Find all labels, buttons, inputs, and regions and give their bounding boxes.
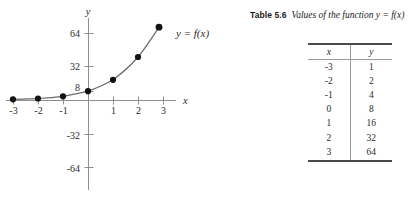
table-header-row: x y [308,44,392,60]
table-row: -2 2 [308,74,392,88]
data-point [10,96,16,102]
table-row: -3 1 [308,60,392,75]
cell-x: 0 [308,103,350,117]
cell-y: 64 [350,145,392,161]
function-curve [13,27,159,99]
x-tick-label: -3 [9,105,17,116]
table-row: -1 4 [308,88,392,102]
cell-y: 4 [350,88,392,102]
cell-x: -3 [308,60,350,75]
cell-y: 32 [350,131,392,145]
table-row: 1 16 [308,117,392,131]
y-tick-label: 64 [70,28,80,39]
x-tick-label: -1 [59,105,67,116]
curve-annotation-label: y = f(x) [175,27,209,40]
table-caption-text: Values of the function y = f(x) [291,10,404,20]
cell-y: 8 [350,103,392,117]
x-tick-label: 1 [111,105,116,116]
data-point [85,88,91,94]
y-tick-label: -32 [67,130,80,141]
y-axis-label: y [85,6,91,17]
column-header-y: y [350,44,392,60]
x-axis-label: x [182,95,188,106]
cell-x: 3 [308,145,350,161]
cell-y: 2 [350,74,392,88]
data-point [135,54,141,60]
values-table: x y -3 1 -2 2 -1 4 0 8 1 16 [308,43,392,162]
y-tick-label: -64 [67,163,80,174]
x-tick-label: 2 [136,105,141,116]
cell-y: 16 [350,117,392,131]
table-row: 3 64 [308,145,392,161]
cell-x: -2 [308,74,350,88]
column-header-x: x [308,44,350,60]
table-caption-tag: Table 5.6 [250,10,287,20]
table-caption: Table 5.6 Values of the function y = f(x… [250,7,409,22]
cell-y: 1 [350,60,392,75]
table-row: 2 32 [308,131,392,145]
data-point [35,95,41,101]
cell-x: 1 [308,117,350,131]
data-point [110,77,116,83]
data-point [156,24,163,31]
cell-x: -1 [308,88,350,102]
cell-x: 2 [308,131,350,145]
table-panel: Table 5.6 Values of the function y = f(x… [248,0,409,202]
data-point [60,93,66,99]
bottom-cutoff-text [8,195,208,202]
x-tick-label: 3 [161,105,166,116]
y-tick-label: 32 [70,61,80,72]
function-graph: -3 -2 -1 1 2 3 64 32 8 -32 -64 x y y = f… [0,0,240,202]
table-row: 0 8 [308,103,392,117]
y-tick-label: 8 [75,82,80,93]
x-tick-label: -2 [34,105,42,116]
figure-panel: -3 -2 -1 1 2 3 64 32 8 -32 -64 x y y = f… [0,0,240,202]
